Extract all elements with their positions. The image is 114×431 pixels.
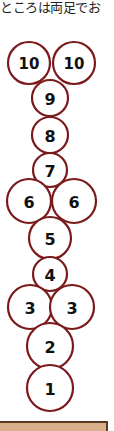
hopscotch-cell-3: 3 (50, 285, 94, 329)
hopscotch-cell-9: 9 (32, 80, 68, 116)
cell-number: 1 (44, 380, 55, 399)
cell-number: 7 (44, 162, 55, 181)
cell-number: 6 (23, 193, 34, 212)
footer-bar (0, 421, 108, 431)
cell-number: 6 (68, 193, 79, 212)
cell-number: 10 (64, 55, 85, 73)
hopscotch-cell-10: 10 (8, 42, 50, 84)
cell-number: 10 (19, 55, 40, 73)
hopscotch-cell-8: 8 (32, 117, 68, 153)
cell-number: 8 (44, 127, 55, 146)
hopscotch-cell-10: 10 (53, 42, 95, 84)
cell-number: 3 (66, 299, 77, 318)
hopscotch-cell-1: 1 (27, 365, 73, 411)
hopscotch-cell-5: 5 (29, 217, 71, 259)
cell-number: 5 (44, 230, 55, 249)
cell-number: 3 (24, 299, 35, 318)
cell-number: 2 (44, 338, 55, 357)
hopscotch-cell-6: 6 (52, 179, 96, 223)
hopscotch-cell-6: 6 (7, 179, 51, 223)
cell-number: 4 (44, 266, 55, 285)
hopscotch-cell-2: 2 (27, 323, 73, 369)
cell-number: 9 (44, 90, 55, 109)
